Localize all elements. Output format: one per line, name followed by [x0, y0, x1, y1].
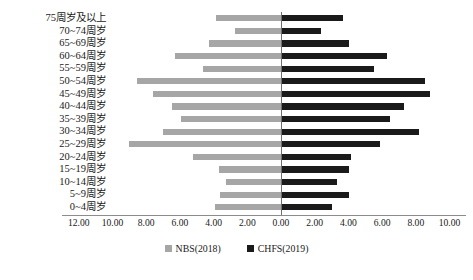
bar-chfs: [281, 129, 419, 135]
pyramid-row: [0, 201, 473, 214]
bar-nbs: [163, 129, 281, 135]
legend-label: CHFS(2019): [258, 243, 309, 254]
pyramid-row: [0, 138, 473, 151]
value-axis-line: [62, 215, 466, 216]
bar-nbs: [129, 141, 281, 147]
pyramid-row: [0, 37, 473, 50]
axis-tick-label: 6.00: [374, 217, 391, 228]
pyramid-row: [0, 25, 473, 38]
bar-nbs: [215, 204, 281, 210]
pyramid-row: [0, 113, 473, 126]
zero-axis-line: [281, 12, 282, 215]
bar-nbs: [219, 166, 281, 172]
bar-chfs: [281, 28, 321, 34]
pyramid-row: [0, 88, 473, 101]
axis-tick-label: 6.00: [171, 217, 188, 228]
axis-tick-label: 2.00: [306, 217, 323, 228]
pyramid-row: [0, 62, 473, 75]
pyramid-row: [0, 188, 473, 201]
bar-chfs: [281, 15, 343, 21]
pyramid-row: [0, 163, 473, 176]
bar-chfs: [281, 53, 387, 59]
bar-chfs: [281, 204, 332, 210]
axis-tick-label: 2.00: [239, 217, 256, 228]
bar-chfs: [281, 91, 430, 97]
axis-tick-label: 4.00: [205, 217, 222, 228]
pyramid-row: [0, 176, 473, 189]
bar-chfs: [281, 116, 390, 122]
bar-nbs: [137, 78, 281, 84]
legend-item[interactable]: CHFS(2019): [247, 243, 309, 254]
bar-nbs: [235, 28, 281, 34]
legend-item[interactable]: NBS(2018): [165, 243, 221, 254]
bar-chfs: [281, 166, 349, 172]
pyramid-row: [0, 100, 473, 113]
axis-tick-label: 12.00: [68, 217, 90, 228]
bar-nbs: [153, 91, 281, 97]
pyramid-row: [0, 151, 473, 164]
bar-nbs: [203, 66, 281, 72]
population-pyramid-chart: 75周岁及以上70~74周岁65~69周岁60~64周岁55~59周岁50~54…: [0, 0, 473, 280]
bars-area: [0, 12, 473, 214]
axis-tick-label: 8.00: [138, 217, 155, 228]
axis-tick-label: 0.00: [273, 217, 290, 228]
legend-swatch-icon: [165, 245, 172, 252]
value-axis-ticks: 12.0010.008.006.004.002.000.002.004.006.…: [0, 217, 473, 233]
chart-legend: NBS(2018)CHFS(2019): [0, 243, 473, 254]
bar-nbs: [216, 15, 281, 21]
bar-nbs: [226, 179, 281, 185]
pyramid-row: [0, 50, 473, 63]
bar-chfs: [281, 154, 351, 160]
bar-chfs: [281, 192, 349, 198]
pyramid-row: [0, 125, 473, 138]
bar-nbs: [193, 154, 281, 160]
bar-chfs: [281, 141, 380, 147]
bar-nbs: [181, 116, 281, 122]
bar-chfs: [281, 66, 374, 72]
figure-caption: [0, 269, 473, 280]
bar-nbs: [220, 192, 281, 198]
bar-chfs: [281, 179, 337, 185]
bar-chfs: [281, 40, 349, 46]
bar-nbs: [172, 103, 281, 109]
axis-tick-label: 4.00: [340, 217, 357, 228]
axis-tick-label: 10.00: [439, 217, 461, 228]
bar-chfs: [281, 103, 404, 109]
legend-swatch-icon: [247, 245, 254, 252]
axis-tick-label: 8.00: [407, 217, 424, 228]
bar-nbs: [209, 40, 281, 46]
pyramid-row: [0, 12, 473, 25]
bar-nbs: [175, 53, 281, 59]
axis-tick-label: 10.00: [102, 217, 124, 228]
legend-label: NBS(2018): [176, 243, 221, 254]
bar-chfs: [281, 78, 425, 84]
pyramid-row: [0, 75, 473, 88]
